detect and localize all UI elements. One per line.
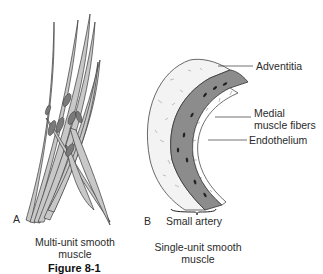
panel-b-caption-line1: Single-unit smooth [143, 241, 253, 253]
panel-b-caption-line2: muscle [143, 253, 253, 265]
artery-drawing [147, 59, 248, 210]
panel-letter-a: A [13, 213, 20, 225]
panel-letter-b: B [144, 215, 151, 227]
figure-caption: Figure 8-1 [48, 262, 101, 274]
label-medial-line1: Medial [254, 107, 316, 119]
panel-a-caption-line2: muscle [20, 248, 130, 260]
panel-b-caption: Single-unit smooth muscle [143, 241, 253, 265]
label-small-artery: Small artery [166, 215, 222, 227]
label-medial-line2: muscle fibers [254, 119, 316, 131]
label-medial-muscle-fibers: Medial muscle fibers [254, 107, 316, 131]
label-endothelium: Endothelium [249, 134, 307, 146]
panel-a-caption: Multi-unit smooth muscle [20, 236, 130, 260]
panel-a-caption-line1: Multi-unit smooth [20, 236, 130, 248]
label-adventitia: Adventitia [256, 60, 302, 72]
